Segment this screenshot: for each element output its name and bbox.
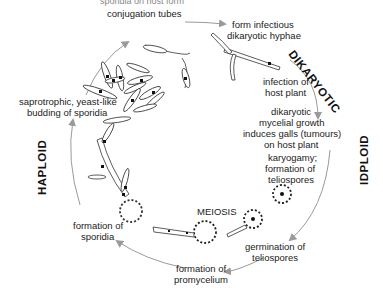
- label-growth-1: dikaryotic: [271, 106, 311, 117]
- label-meiosis: MEIOSIS: [197, 206, 237, 217]
- label-germination-2: teliospores: [252, 252, 298, 263]
- label-karyogamy-3: teliospores: [268, 174, 314, 185]
- label-budding-2: budding of sporidia: [27, 107, 107, 118]
- label-form-hyphae-2: dikaryotic hyphae: [227, 30, 301, 41]
- label-promycelium-2: promycelium: [174, 274, 228, 285]
- label-infection-1: infection of: [263, 76, 309, 87]
- label-budding-1: saprotrophic, yeast-like: [19, 96, 117, 107]
- phase-haploid: HAPLOID: [36, 140, 48, 195]
- label-form-hyphae-1: form infectious: [232, 19, 294, 30]
- label-karyogamy-2: formation of: [265, 163, 315, 174]
- label-top-cut: sporidia on host form: [100, 0, 184, 7]
- label-karyogamy-1: karyogamy;: [268, 152, 317, 163]
- label-growth-4: on host plant: [264, 139, 318, 150]
- label-growth-2: mycelial growth: [259, 117, 324, 128]
- promycelium-strand: [88, 122, 142, 222]
- cycle-arrows-and-cells: [0, 0, 383, 295]
- label-promycelium-1: formation of: [176, 263, 226, 274]
- phase-diploid: IDPLOID: [358, 135, 370, 185]
- label-conjugation-tubes: conjugation tubes: [107, 8, 181, 19]
- life-cycle-diagram: sporidia on host form conjugation tubes …: [0, 0, 383, 295]
- label-sporidia-1: formation of: [73, 220, 123, 231]
- label-germination-1: germination of: [245, 241, 305, 252]
- label-infection-2: host plant: [265, 87, 306, 98]
- label-sporidia-2: sporidia: [81, 231, 114, 242]
- label-growth-3: induces galls (tumours): [243, 128, 341, 139]
